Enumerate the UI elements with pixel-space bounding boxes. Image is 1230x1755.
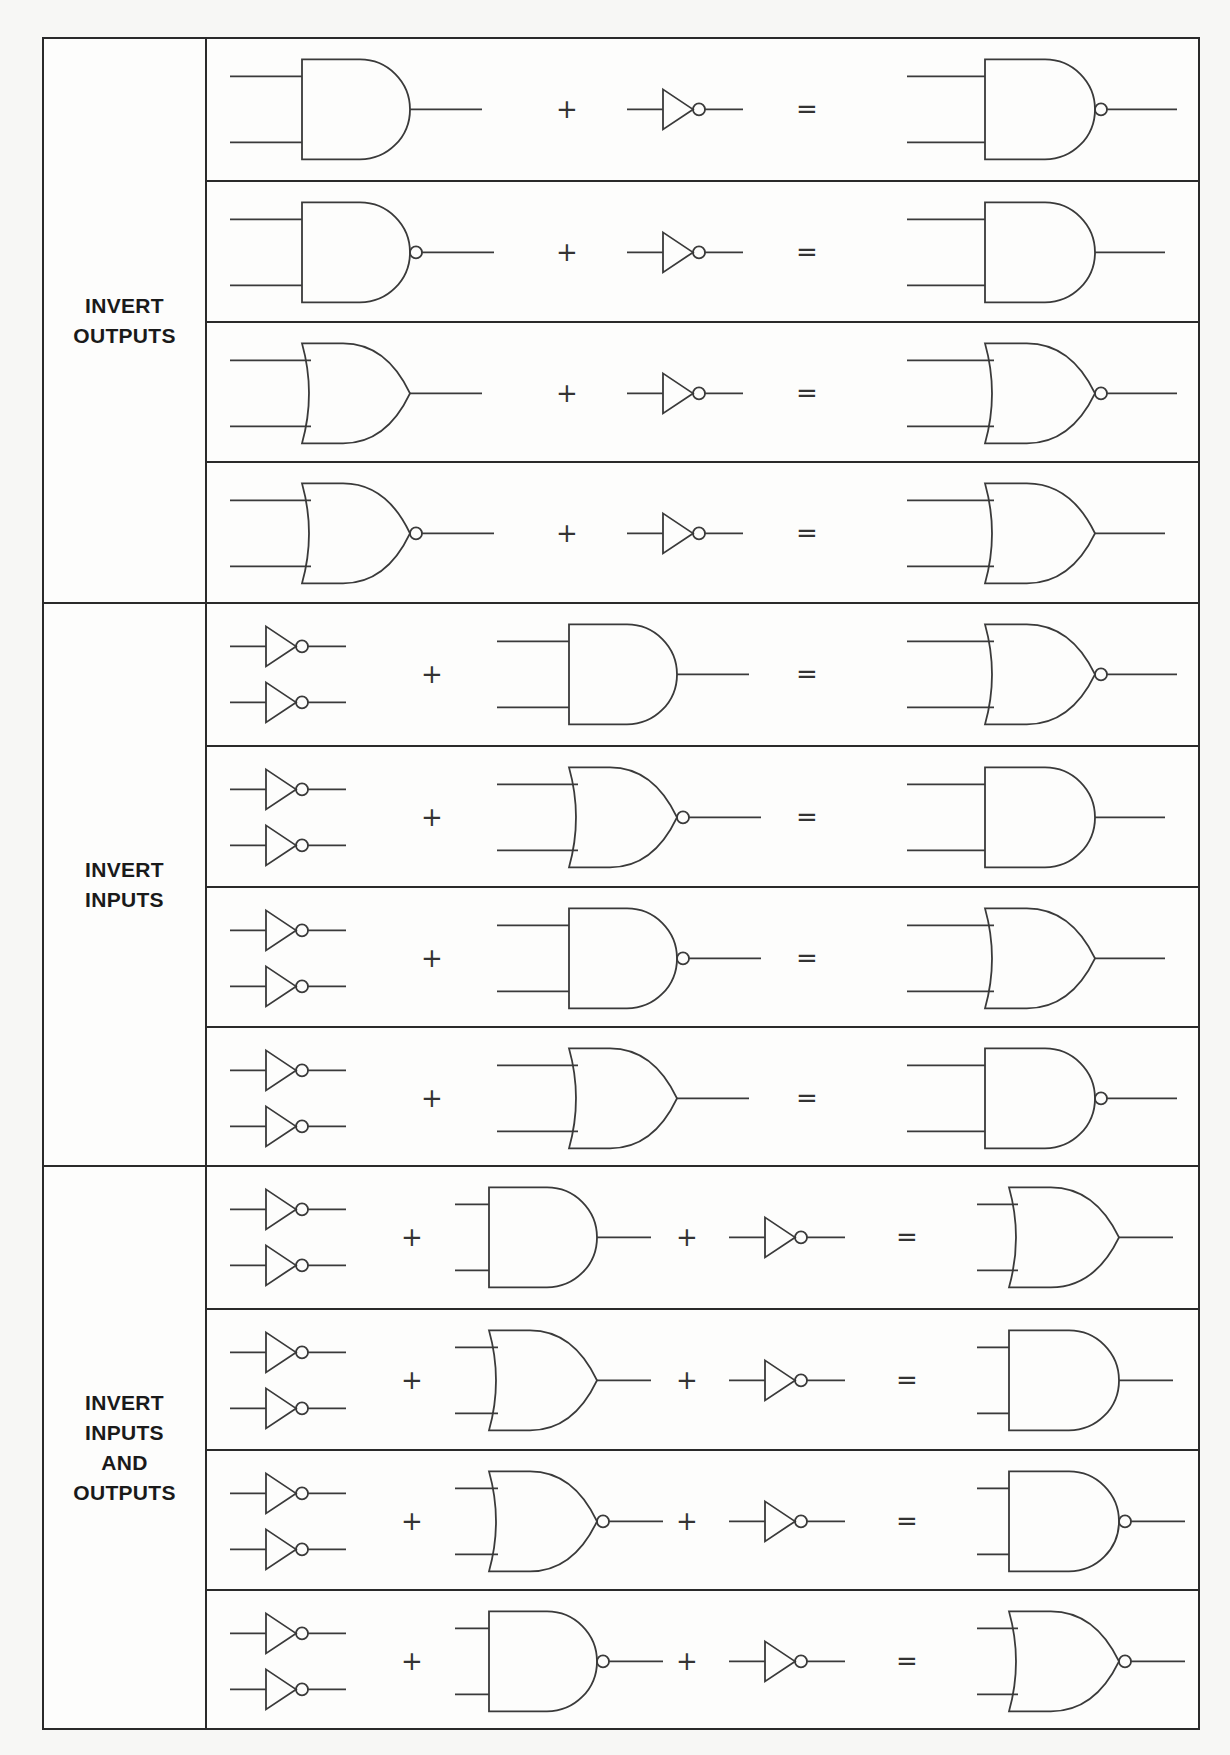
plus-operator: + — [556, 519, 578, 549]
not-gate-icon — [627, 232, 743, 272]
equivalence-row: += — [207, 745, 1198, 886]
plus-operator: + — [401, 1506, 423, 1536]
equals-operator: = — [796, 802, 818, 832]
row-diagram: ++= — [207, 1591, 1198, 1730]
not-gate-icon — [230, 1245, 346, 1285]
and-gate-icon — [497, 624, 749, 724]
not-gate-icon — [230, 1332, 346, 1372]
row-diagram: += — [207, 604, 1198, 745]
row-diagram: += — [207, 182, 1198, 321]
row-diagram: ++= — [207, 1310, 1198, 1449]
nand-gate-icon — [907, 59, 1177, 159]
equals-operator: = — [796, 378, 818, 408]
nand-gate-icon — [497, 908, 761, 1008]
and-gate-icon — [907, 202, 1165, 302]
equals-operator: = — [896, 1647, 918, 1677]
nand-gate-icon — [230, 202, 494, 302]
not-gate-icon — [230, 626, 346, 666]
group-0: INVERT OUTPUTS+=+=+=+= — [44, 39, 1198, 602]
equivalence-row: ++= — [207, 1449, 1198, 1590]
plus-operator: + — [676, 1506, 698, 1536]
equivalence-row: += — [207, 321, 1198, 462]
not-gate-icon — [230, 1189, 346, 1229]
plus-operator: + — [421, 659, 443, 689]
equivalence-row: += — [207, 886, 1198, 1027]
not-gate-icon — [230, 1473, 346, 1513]
not-gate-icon — [729, 1360, 845, 1400]
group-label: INVERT INPUTS — [44, 604, 207, 1165]
or-gate-icon — [977, 1187, 1173, 1287]
equivalence-row: ++= — [207, 1589, 1198, 1730]
row-diagram: += — [207, 323, 1198, 462]
equals-operator: = — [796, 659, 818, 689]
not-gate-icon — [230, 1107, 346, 1147]
not-gate-icon — [729, 1642, 845, 1682]
gate-equivalence-table: INVERT OUTPUTS+=+=+=+=INVERT INPUTS+=+=+… — [42, 37, 1200, 1730]
or-gate-icon — [907, 908, 1165, 1008]
equals-operator: = — [896, 1365, 918, 1395]
equivalence-row: ++= — [207, 1308, 1198, 1449]
plus-operator: + — [676, 1222, 698, 1252]
nand-gate-icon — [977, 1471, 1185, 1571]
nor-gate-icon — [977, 1612, 1185, 1712]
nor-gate-icon — [230, 484, 494, 584]
equals-operator: = — [796, 943, 818, 973]
not-gate-icon — [230, 1529, 346, 1569]
equivalence-row: += — [207, 1026, 1198, 1167]
row-diagram: ++= — [207, 1167, 1198, 1308]
nor-gate-icon — [455, 1471, 663, 1571]
row-diagram: += — [207, 747, 1198, 886]
and-gate-icon — [230, 59, 482, 159]
not-gate-icon — [729, 1501, 845, 1541]
equivalence-row: += — [207, 461, 1198, 602]
plus-operator: + — [556, 237, 578, 267]
not-gate-icon — [230, 966, 346, 1006]
plus-operator: + — [421, 943, 443, 973]
group-2: INVERT INPUTS AND OUTPUTS++=++=++=++= — [44, 1165, 1198, 1728]
equals-operator: = — [796, 1084, 818, 1114]
nor-gate-icon — [497, 767, 761, 867]
row-diagram: += — [207, 888, 1198, 1027]
not-gate-icon — [230, 1388, 346, 1428]
equivalence-row: += — [207, 180, 1198, 321]
not-gate-icon — [230, 682, 346, 722]
not-gate-icon — [627, 89, 743, 129]
nand-gate-icon — [455, 1612, 663, 1712]
plus-operator: + — [401, 1647, 423, 1677]
equals-operator: = — [796, 237, 818, 267]
plus-operator: + — [401, 1222, 423, 1252]
plus-operator: + — [556, 94, 578, 124]
row-diagram: += — [207, 39, 1198, 180]
nor-gate-icon — [907, 343, 1177, 443]
plus-operator: + — [401, 1365, 423, 1395]
or-gate-icon — [497, 1049, 749, 1149]
nor-gate-icon — [907, 624, 1177, 724]
plus-operator: + — [676, 1365, 698, 1395]
group-label: INVERT OUTPUTS — [44, 39, 207, 602]
not-gate-icon — [230, 825, 346, 865]
equals-operator: = — [796, 94, 818, 124]
not-gate-icon — [230, 1614, 346, 1654]
plus-operator: + — [421, 802, 443, 832]
group-label: INVERT INPUTS AND OUTPUTS — [44, 1167, 207, 1728]
and-gate-icon — [455, 1187, 651, 1287]
not-gate-icon — [627, 373, 743, 413]
equals-operator: = — [896, 1506, 918, 1536]
row-diagram: += — [207, 463, 1198, 602]
and-gate-icon — [907, 767, 1165, 867]
not-gate-icon — [230, 1670, 346, 1710]
not-gate-icon — [230, 1051, 346, 1091]
nand-gate-icon — [907, 1049, 1177, 1149]
or-gate-icon — [907, 484, 1165, 584]
equivalence-row: ++= — [207, 1167, 1198, 1308]
equivalence-row: += — [207, 604, 1198, 745]
plus-operator: + — [676, 1647, 698, 1677]
group-1: INVERT INPUTS+=+=+=+= — [44, 602, 1198, 1165]
or-gate-icon — [455, 1330, 651, 1430]
equals-operator: = — [796, 519, 818, 549]
row-diagram: += — [207, 1028, 1198, 1167]
not-gate-icon — [230, 910, 346, 950]
not-gate-icon — [230, 769, 346, 809]
plus-operator: + — [421, 1084, 443, 1114]
not-gate-icon — [729, 1217, 845, 1257]
